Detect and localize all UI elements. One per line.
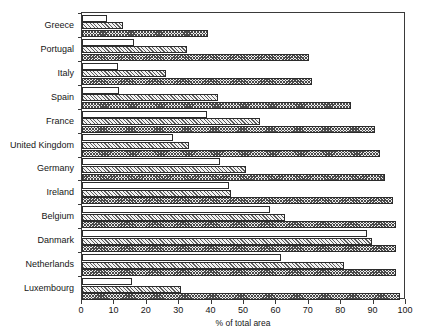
category-tick xyxy=(78,109,82,110)
bar-group xyxy=(82,15,404,37)
bar xyxy=(82,150,380,157)
category-tick xyxy=(78,61,82,62)
bar-group xyxy=(82,182,404,204)
bar xyxy=(82,22,123,29)
bar xyxy=(82,269,396,276)
x-axis-tick-label: 50 xyxy=(238,305,248,315)
bar xyxy=(82,182,229,189)
bar xyxy=(82,30,208,37)
category-label: Luxembourg xyxy=(24,283,74,293)
bar xyxy=(82,230,367,237)
bar xyxy=(82,166,246,173)
category-label: France xyxy=(46,116,74,126)
x-axis-tick xyxy=(308,299,309,304)
x-axis-tick-label: 0 xyxy=(78,305,83,315)
category-tick xyxy=(78,85,82,86)
x-axis-tick-label: 100 xyxy=(397,305,412,315)
bar-group xyxy=(82,87,404,109)
x-axis-tick xyxy=(81,299,82,304)
x-axis-tick xyxy=(373,299,374,304)
x-axis-tick-label: 20 xyxy=(141,305,151,315)
category-tick xyxy=(78,133,82,134)
x-axis-tick-label: 80 xyxy=(335,305,345,315)
bar xyxy=(82,254,281,261)
bar xyxy=(82,190,231,197)
bar xyxy=(82,126,375,133)
plot-area xyxy=(81,12,405,299)
x-axis-tick xyxy=(243,299,244,304)
bar-group xyxy=(82,158,404,180)
x-axis: % of total area 0102030405060708090100 xyxy=(81,299,405,333)
x-axis-tick-label: 70 xyxy=(303,305,313,315)
x-axis-tick xyxy=(113,299,114,304)
category-label: Ireland xyxy=(46,187,74,197)
bar xyxy=(82,118,260,125)
bar xyxy=(82,245,396,252)
category-label: Germany xyxy=(37,163,74,173)
x-axis-tick xyxy=(146,299,147,304)
category-label: Spain xyxy=(51,92,74,102)
category-tick xyxy=(78,37,82,38)
bar xyxy=(82,78,312,85)
category-tick xyxy=(78,204,82,205)
bar xyxy=(82,278,132,285)
bar xyxy=(82,158,220,165)
bar xyxy=(82,238,372,245)
bar xyxy=(82,111,207,118)
x-axis-tick-label: 10 xyxy=(108,305,118,315)
bar xyxy=(82,102,351,109)
bar xyxy=(82,70,166,77)
bar xyxy=(82,134,173,141)
category-label: Portugal xyxy=(40,44,74,54)
category-tick xyxy=(78,228,82,229)
category-label: Netherlands xyxy=(25,259,74,269)
x-axis-tick xyxy=(211,299,212,304)
category-label: Danmark xyxy=(37,235,74,245)
bar-group xyxy=(82,134,404,156)
category-label: Greece xyxy=(44,20,74,30)
bar-group xyxy=(82,111,404,133)
bar xyxy=(82,174,385,181)
bar-group xyxy=(82,230,404,252)
x-axis-tick-label: 40 xyxy=(206,305,216,315)
bar-group xyxy=(82,39,404,61)
category-tick xyxy=(78,157,82,158)
bar xyxy=(82,15,107,22)
category-tick xyxy=(78,276,82,277)
x-axis-tick-label: 30 xyxy=(173,305,183,315)
bar xyxy=(82,197,393,204)
x-axis-tick-label: 60 xyxy=(270,305,280,315)
x-axis-tick xyxy=(178,299,179,304)
bar-group xyxy=(82,63,404,85)
x-axis-tick xyxy=(275,299,276,304)
x-axis-tick xyxy=(340,299,341,304)
bar xyxy=(82,142,189,149)
bar xyxy=(82,262,344,269)
bar xyxy=(82,221,396,228)
x-axis-tick-label: 90 xyxy=(368,305,378,315)
category-label: United Kingdom xyxy=(10,140,74,150)
bar xyxy=(82,286,181,293)
category-label: Italy xyxy=(57,68,74,78)
bar-chart: GreecePortugalItalySpainFranceUnited Kin… xyxy=(0,0,423,333)
bar xyxy=(82,39,134,46)
category-label: Belgium xyxy=(41,211,74,221)
bar xyxy=(82,214,285,221)
category-tick xyxy=(78,252,82,253)
x-axis-tick xyxy=(405,299,406,304)
bar xyxy=(82,54,309,61)
x-axis-title: % of total area xyxy=(81,318,405,328)
category-tick xyxy=(78,180,82,181)
bar-group xyxy=(82,206,404,228)
bar xyxy=(82,94,218,101)
bar-group xyxy=(82,254,404,276)
bar xyxy=(82,206,270,213)
bar xyxy=(82,63,118,70)
bar xyxy=(82,87,119,94)
category-axis: GreecePortugalItalySpainFranceUnited Kin… xyxy=(0,12,78,299)
category-tick xyxy=(78,13,82,14)
bar-group xyxy=(82,278,404,300)
bar xyxy=(82,46,187,53)
